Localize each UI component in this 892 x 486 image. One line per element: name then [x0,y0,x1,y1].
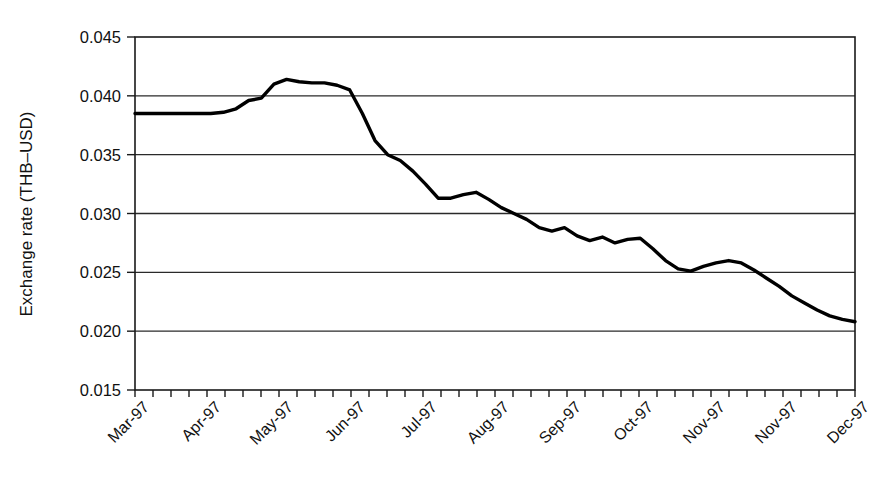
exchange-rate-line-chart: Exchange rate (THB–USD) 0.0450.0400.0350… [0,0,892,486]
x-tick-label: Dec-97 [824,398,873,447]
x-tick-label: Aug-97 [464,398,513,447]
y-tick-label: 0.020 [80,322,121,340]
x-tick-label: Jul-97 [397,398,440,441]
x-tick-label: Apr-97 [178,398,224,444]
x-tick-label: Sep-97 [536,398,585,447]
x-tick-label: Nov-97 [752,398,801,447]
x-tick-label: Mar-97 [104,398,152,446]
y-tick-label: 0.015 [80,381,121,399]
x-axis-tick-marks [135,390,855,397]
y-tick-label: 0.045 [80,28,121,46]
y-gridlines [135,96,855,331]
x-tick-label: May-97 [246,398,296,448]
data-series-line [135,79,855,321]
x-tick-label: Oct-97 [610,398,656,444]
y-tick-label: 0.025 [80,263,121,281]
y-axis-tick-marks [127,37,135,390]
y-tick-label: 0.040 [80,87,121,105]
x-tick-label: Nov-97 [680,398,729,447]
y-axis-tick-labels: 0.0450.0400.0350.0300.0250.0200.015 [80,28,121,399]
x-axis-tick-labels: Mar-97Apr-97May-97Jun-97Jul-97Aug-97Sep-… [104,398,872,448]
y-tick-label: 0.035 [80,146,121,164]
y-axis-title: Exchange rate (THB–USD) [17,111,36,316]
x-tick-label: Jun-97 [322,398,369,445]
y-tick-label: 0.030 [80,205,121,223]
chart-figure: Exchange rate (THB–USD) 0.0450.0400.0350… [0,0,892,486]
